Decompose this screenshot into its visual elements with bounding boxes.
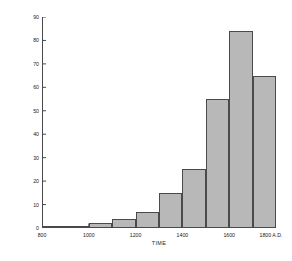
histogram-figure: 0102030405060708090 80010001200140016001… <box>0 0 292 261</box>
y-tick-label: 60 <box>33 84 39 90</box>
x-tick-label: 1600 <box>223 232 235 238</box>
bar <box>159 193 182 228</box>
x-tick-label: 800 <box>38 232 47 238</box>
bar <box>42 226 65 228</box>
x-tick-label: 1800 A.D. <box>260 232 283 238</box>
bar <box>65 226 88 228</box>
y-tick-label: 10 <box>33 202 39 208</box>
bar <box>229 31 252 228</box>
y-tick-label: 80 <box>33 37 39 43</box>
x-tick-label: 1000 <box>83 232 95 238</box>
plot-area: 0102030405060708090 80010001200140016001… <box>42 17 276 228</box>
bar <box>206 99 229 228</box>
bar <box>89 223 112 228</box>
y-tick-label: 20 <box>33 178 39 184</box>
y-tick-label: 0 <box>36 225 39 231</box>
y-axis-title: NO. OF RESIDENTIAL SITES <box>12 0 24 17</box>
x-tick-label: 1400 <box>177 232 189 238</box>
y-tick-label: 50 <box>33 108 39 114</box>
y-tick-label: 40 <box>33 131 39 137</box>
y-tick-label: 30 <box>33 155 39 161</box>
y-tick-label: 70 <box>33 61 39 67</box>
bar-series <box>42 17 276 228</box>
bar <box>112 219 135 228</box>
bar <box>182 169 205 228</box>
bar <box>253 76 276 228</box>
x-tick-label: 1200 <box>130 232 142 238</box>
x-axis-title: TIME <box>42 240 276 246</box>
y-tick-label: 90 <box>33 14 39 20</box>
bar <box>136 212 159 228</box>
